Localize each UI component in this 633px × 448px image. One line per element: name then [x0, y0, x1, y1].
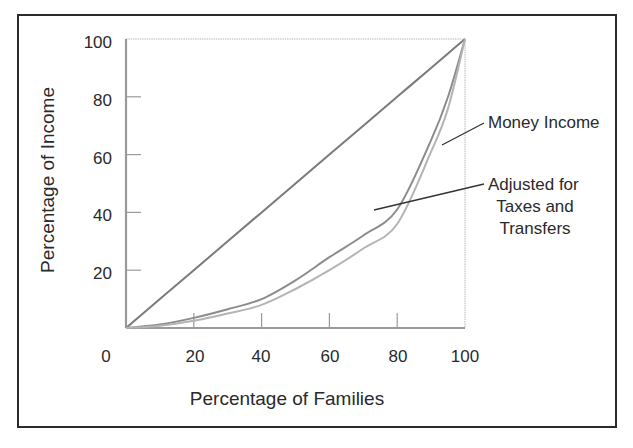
x-tick-0: 0: [101, 347, 110, 366]
x-tick-80: 80: [389, 347, 408, 366]
x-tick-20: 20: [186, 347, 205, 366]
y-tick-20: 20: [93, 264, 112, 283]
y-axis-title: Percentage of Income: [37, 87, 58, 273]
y-tick-60: 60: [93, 149, 112, 168]
adjusted-leader-line: [374, 184, 484, 210]
x-tick-40: 40: [252, 347, 271, 366]
y-tick-40: 40: [93, 206, 112, 225]
x-axis-title: Percentage of Families: [190, 388, 384, 409]
series-lines: [126, 39, 465, 328]
x-tick-100: 100: [451, 347, 479, 366]
equality-line: [126, 39, 465, 328]
x-tick-60: 60: [321, 347, 340, 366]
adjusted-label-line1: Adjusted for: [488, 175, 579, 194]
y-tick-100: 100: [84, 33, 112, 52]
adjusted-label-line2: Taxes and: [496, 197, 574, 216]
adjusted-label-line3: Transfers: [499, 219, 570, 238]
lorenz-chart: 100 80 60 40 20 0 20 40 60 80 100 Percen…: [0, 0, 633, 448]
y-tick-80: 80: [93, 91, 112, 110]
money-income-leader-line: [442, 123, 484, 145]
money-income-label: Money Income: [488, 113, 600, 132]
